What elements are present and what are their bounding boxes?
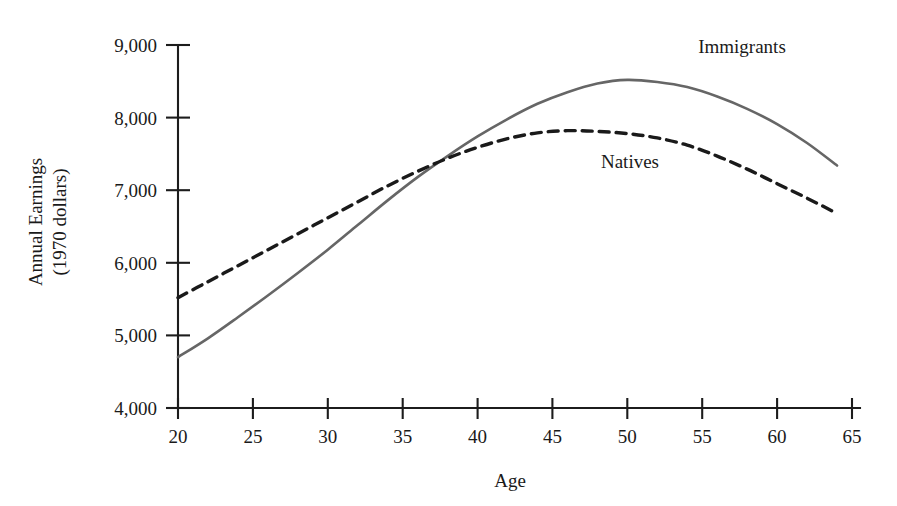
x-tick-label-25: 25 <box>243 426 262 447</box>
series-label-natives: Natives <box>601 151 659 172</box>
chart-svg: 9,000 8,000 7,000 6,000 5,000 4,000 20 2… <box>0 0 897 506</box>
x-tick-label-35: 35 <box>393 426 412 447</box>
series-label-immigrants: Immigrants <box>698 36 786 57</box>
x-tick-label-40: 40 <box>468 426 487 447</box>
y-tick-label-6000: 6,000 <box>114 253 157 274</box>
y-tick-label-8000: 8,000 <box>114 108 157 129</box>
y-axis-title-line2: (1970 dollars) <box>49 168 71 275</box>
y-tick-label-4000: 4,000 <box>114 398 157 419</box>
earnings-age-profile-chart: 9,000 8,000 7,000 6,000 5,000 4,000 20 2… <box>0 0 897 506</box>
x-tick-label-45: 45 <box>543 426 562 447</box>
series-line-natives <box>178 131 837 298</box>
x-axis-tick-labels: 20 25 30 35 40 45 50 55 60 65 <box>169 426 862 447</box>
x-tick-label-50: 50 <box>618 426 637 447</box>
y-axis-title-line1: Annual Earnings <box>25 158 46 286</box>
x-tick-label-60: 60 <box>768 426 787 447</box>
y-axis-title: Annual Earnings (1970 dollars) <box>25 158 71 286</box>
x-tick-label-20: 20 <box>169 426 188 447</box>
x-axis-title: Age <box>494 470 526 491</box>
x-tick-label-30: 30 <box>318 426 337 447</box>
y-tick-label-5000: 5,000 <box>114 325 157 346</box>
x-tick-label-65: 65 <box>843 426 862 447</box>
y-tick-label-9000: 9,000 <box>114 35 157 56</box>
x-tick-label-55: 55 <box>693 426 712 447</box>
series-line-immigrants <box>178 80 837 357</box>
y-axis-tick-labels: 9,000 8,000 7,000 6,000 5,000 4,000 <box>114 35 157 419</box>
y-tick-label-7000: 7,000 <box>114 180 157 201</box>
